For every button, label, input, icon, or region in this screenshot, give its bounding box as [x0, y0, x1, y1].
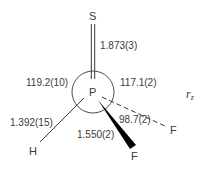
- atom-f-dash: F: [170, 124, 177, 136]
- structure-type-label: rz: [186, 87, 195, 102]
- molecule-diagram: S P H F F 1.873(3) 1.392(15) 1.550(2) 11…: [0, 0, 208, 170]
- atom-f-wedge: F: [131, 150, 138, 162]
- bond-length-p-f: 1.550(2): [77, 129, 114, 140]
- bond-length-p-s: 1.873(3): [100, 40, 137, 51]
- atom-s: S: [89, 10, 96, 22]
- angle-s-p-h: 119.2(10): [26, 77, 68, 88]
- atom-h: H: [29, 145, 37, 157]
- angle-f-p-f: 98.7(2): [119, 114, 151, 125]
- bond-length-p-h: 1.392(15): [10, 117, 53, 128]
- atom-p: P: [89, 86, 96, 98]
- angle-s-p-f: 117.1(2): [120, 77, 157, 88]
